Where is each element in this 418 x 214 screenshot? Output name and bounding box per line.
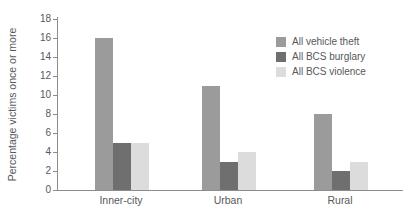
bar bbox=[131, 143, 149, 191]
x-category-label: Inner-city bbox=[99, 194, 142, 206]
bar bbox=[238, 152, 256, 190]
y-tick-label: 2 bbox=[0, 165, 51, 177]
legend-label: All BCS violence bbox=[292, 66, 366, 78]
y-tick-label: 18 bbox=[0, 13, 51, 25]
legend-item: All BCS violence bbox=[276, 66, 366, 78]
y-tick-label: 0 bbox=[0, 184, 51, 196]
legend-swatch bbox=[276, 67, 286, 77]
y-tick-label: 16 bbox=[0, 32, 51, 44]
legend-item: All vehicle theft bbox=[276, 36, 366, 48]
x-category-label: Rural bbox=[327, 194, 352, 206]
legend-item: All BCS burglary bbox=[276, 51, 366, 63]
bar bbox=[314, 114, 332, 190]
legend-swatch bbox=[276, 37, 286, 47]
x-category-label: Urban bbox=[214, 194, 243, 206]
bar bbox=[220, 162, 238, 191]
y-tick-label: 14 bbox=[0, 51, 51, 63]
legend-label: All vehicle theft bbox=[292, 36, 359, 48]
bar bbox=[332, 171, 350, 190]
y-tick-label: 8 bbox=[0, 108, 51, 120]
legend-swatch bbox=[276, 52, 286, 62]
legend-label: All BCS burglary bbox=[292, 51, 365, 63]
bar bbox=[113, 143, 131, 191]
y-tick-label: 12 bbox=[0, 70, 51, 82]
legend: All vehicle theftAll BCS burglaryAll BCS… bbox=[276, 36, 366, 81]
y-tick-label: 6 bbox=[0, 127, 51, 139]
y-tick-label: 10 bbox=[0, 89, 51, 101]
bar bbox=[202, 86, 220, 191]
bar bbox=[350, 162, 368, 191]
y-tick-label: 4 bbox=[0, 146, 51, 158]
bar-chart-figure: Percentage victims once or more 02468101… bbox=[0, 0, 418, 214]
bar bbox=[95, 38, 113, 190]
